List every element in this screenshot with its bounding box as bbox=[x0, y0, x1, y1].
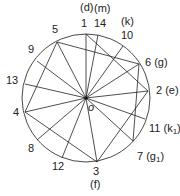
chord-6-7 bbox=[133, 64, 139, 141]
label-2: 2 (e) bbox=[156, 84, 179, 96]
radius-14 bbox=[86, 35, 98, 98]
label-10-sub: (k) bbox=[121, 15, 134, 27]
label-14: 14 bbox=[94, 17, 106, 29]
label-10: 10 bbox=[121, 29, 133, 41]
label-12: 12 bbox=[52, 160, 64, 172]
label-1: 1 bbox=[81, 17, 87, 29]
radius-5 bbox=[57, 42, 86, 98]
center-point bbox=[84, 96, 87, 99]
center-label: o bbox=[88, 101, 94, 113]
label-13: 13 bbox=[6, 74, 18, 86]
circle-division-diagram: o (d) (m) 1 14 (k) 10 5 9 13 6 (g) 2 (e)… bbox=[0, 0, 180, 196]
radius-8 bbox=[37, 98, 86, 140]
label-5: 5 bbox=[52, 23, 58, 35]
label-14-sub: (m) bbox=[94, 2, 111, 14]
label-7: 7 (g1) bbox=[137, 150, 164, 164]
label-1-sub: (d) bbox=[80, 1, 93, 13]
radius-4 bbox=[25, 98, 86, 112]
label-3: 3 bbox=[93, 165, 99, 177]
label-8: 8 bbox=[28, 142, 34, 154]
radius-10 bbox=[86, 46, 123, 98]
label-3-sub: (f) bbox=[90, 178, 100, 190]
chord-1-2 bbox=[86, 34, 148, 91]
label-11: 11 (k1) bbox=[149, 122, 180, 136]
label-4: 4 bbox=[13, 106, 19, 118]
radius-12 bbox=[62, 98, 86, 158]
label-6: 6 (g) bbox=[145, 56, 168, 68]
label-9: 9 bbox=[28, 43, 34, 55]
